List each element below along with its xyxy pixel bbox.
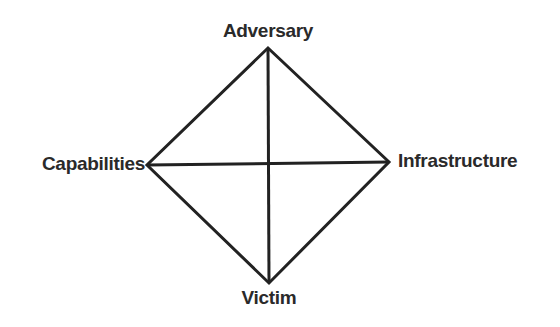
node-capabilities: Capabilities [42,154,145,173]
diamond-model-diagram: Adversary Capabilities Infrastructure Vi… [0,0,560,327]
node-infrastructure: Infrastructure [398,151,517,170]
edge-adversary-victim [268,48,269,283]
edge-capabilities-infrastructure [147,162,389,165]
node-victim: Victim [242,288,297,307]
node-adversary: Adversary [223,21,313,40]
